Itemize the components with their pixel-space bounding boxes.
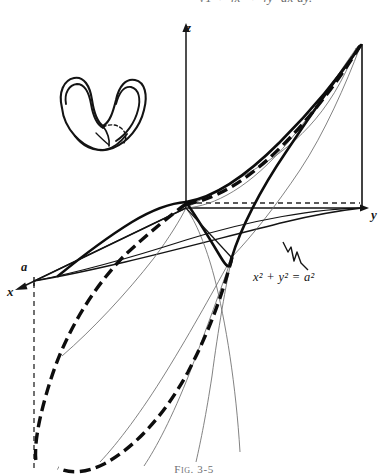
coordinate-axes [15,23,369,290]
dashed-curve-upper [186,46,360,204]
z-axis-label: z [186,21,191,34]
caption-clip: Fig. 3-5 [0,463,388,476]
equation-leader-line [283,242,308,270]
cylinder-equation-label: x² + y² = a² [253,270,315,285]
edge-middle [186,202,232,266]
figure-drawing [0,0,388,476]
y-axis-label: y [371,208,377,221]
saddle-surface-sketch [61,78,146,151]
point-a-label: a [21,261,27,274]
dashed-curve-left [36,204,186,462]
figure-container: = √1 + 4x² + 4y² dx dy. [0,0,388,476]
ridge-upper [186,45,361,202]
figure-caption: Fig. 3-5 [0,463,388,475]
dashed-curve-lower [58,257,232,472]
x-axis-label: x [7,285,14,298]
x-axis-arrowhead [15,283,28,291]
